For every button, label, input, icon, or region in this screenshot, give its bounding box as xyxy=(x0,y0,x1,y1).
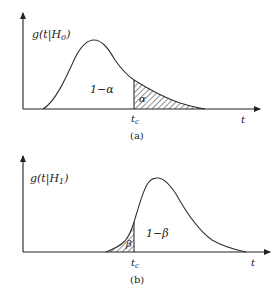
ylabel-b: g(t|H1) xyxy=(30,172,68,186)
hypothesis-test-diagram: g(t|H0) 1−α α tc t (a) g(t|H1) 1−β β tc … xyxy=(0,0,274,290)
label-alpha: α xyxy=(139,93,146,104)
caption-b: (b) xyxy=(130,274,144,285)
label-beta: β xyxy=(125,238,132,249)
caption-a: (a) xyxy=(130,130,144,141)
threshold-label-a: tc xyxy=(131,113,139,126)
label-1-minus-beta: 1−β xyxy=(146,227,169,240)
threshold-label-b: tc xyxy=(131,257,139,270)
xlabel-b: t xyxy=(251,257,256,268)
panel-b: g(t|H1) 1−β β tc t (b) xyxy=(23,156,270,285)
ylabel-a: g(t|H0) xyxy=(32,28,70,42)
label-1-minus-alpha: 1−α xyxy=(90,83,114,96)
xlabel-a: t xyxy=(241,114,246,125)
panel-a: g(t|H0) 1−α α tc t (a) xyxy=(23,13,260,141)
h0-density-curve xyxy=(43,40,205,109)
